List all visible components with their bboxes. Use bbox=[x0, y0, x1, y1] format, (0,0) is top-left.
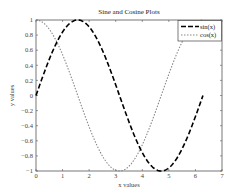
y-tick-label: −1 bbox=[26, 167, 33, 174]
x-tick-label: 5 bbox=[167, 172, 170, 179]
y-tick-label: −0.8 bbox=[21, 152, 33, 159]
y-tick-label: 0.8 bbox=[25, 31, 33, 38]
x-tick-label: 4 bbox=[141, 172, 145, 179]
legend-cos-label: cos(x) bbox=[200, 31, 216, 39]
chart-title: Sine and Cosine Plots bbox=[98, 8, 160, 16]
y-axis-label: y values bbox=[8, 84, 15, 106]
plot-area bbox=[36, 20, 222, 171]
y-tick-label: −0.2 bbox=[21, 107, 33, 114]
y-tick-label: 0.6 bbox=[25, 46, 34, 53]
legend: sin(x) cos(x) bbox=[178, 21, 222, 42]
y-tick-label: −0.4 bbox=[21, 122, 34, 129]
y-tick-label: 1 bbox=[30, 16, 33, 23]
x-axis-label: x values bbox=[118, 181, 140, 188]
x-tick-label: 2 bbox=[88, 172, 91, 179]
x-tick-label: 7 bbox=[220, 172, 224, 179]
chart-canvas: Sine and Cosine Plots 01234567 −1−0.8−0.… bbox=[0, 0, 230, 191]
y-tick-label: 0.2 bbox=[25, 77, 33, 84]
x-tick-label: 3 bbox=[114, 172, 117, 179]
y-tick-label: 0 bbox=[30, 92, 33, 99]
y-tick-label: −0.6 bbox=[21, 137, 34, 144]
legend-sin-label: sin(x) bbox=[200, 23, 215, 31]
y-tick-label: 0.4 bbox=[25, 62, 34, 69]
x-tick-label: 6 bbox=[194, 172, 198, 179]
x-tick-label: 1 bbox=[61, 172, 64, 179]
x-tick-label: 0 bbox=[34, 172, 37, 179]
